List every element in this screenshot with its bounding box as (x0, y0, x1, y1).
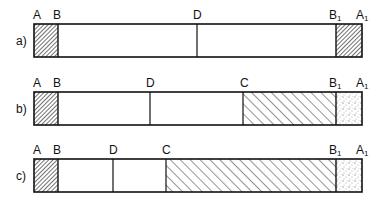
diagram-canvas (0, 0, 387, 204)
point-D: D (146, 77, 155, 89)
point-A1: A1 (356, 9, 368, 25)
point-B: B (53, 77, 61, 89)
point-D: D (109, 144, 118, 156)
point-B: B (53, 144, 61, 156)
point-C: C (240, 77, 249, 89)
bar-b (34, 92, 362, 125)
bar-a (34, 24, 362, 57)
point-A1: A1 (356, 77, 368, 93)
row-label-b: b) (16, 103, 27, 115)
point-B: B (53, 9, 61, 21)
bar-c (34, 159, 362, 192)
point-A: A (33, 9, 41, 21)
point-C: C (162, 144, 171, 156)
row-label-a: a) (16, 35, 27, 47)
row-label-c: c) (16, 170, 26, 182)
point-A: A (33, 77, 41, 89)
point-B1: B1 (329, 9, 341, 25)
point-A1: A1 (356, 144, 368, 160)
point-B1: B1 (329, 144, 341, 160)
point-B1: B1 (329, 77, 341, 93)
point-D: D (193, 9, 202, 21)
point-A: A (33, 144, 41, 156)
